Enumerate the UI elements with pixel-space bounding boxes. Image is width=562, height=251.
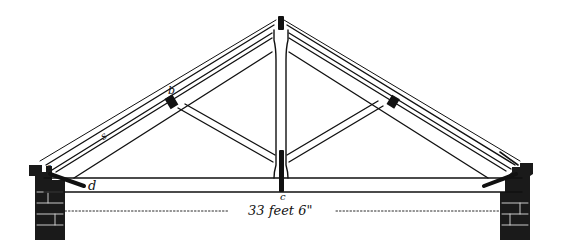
label-b: b <box>168 84 175 97</box>
right-purlin-block <box>386 95 399 109</box>
right-principal-rafter <box>287 25 515 178</box>
right-strut <box>287 101 383 162</box>
right-common-rafter <box>284 20 520 161</box>
king-post <box>274 16 288 192</box>
left-common-rafter <box>40 20 276 161</box>
label-d: d <box>88 178 96 193</box>
label-a: a <box>46 162 51 172</box>
roof-truss-diagram: b s a d c 33 feet 6" <box>0 0 562 251</box>
left-strut <box>178 104 275 162</box>
label-c: c <box>280 191 286 202</box>
left-principal-rafter <box>46 25 274 178</box>
span-dimension-text: 33 feet 6" <box>248 203 312 218</box>
